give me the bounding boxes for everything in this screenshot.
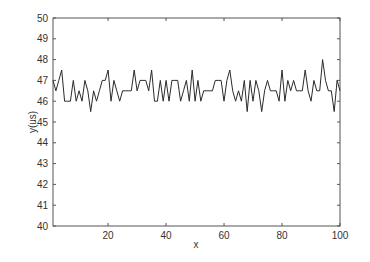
y-tick-label: 45 bbox=[37, 117, 49, 128]
x-tick-label: 100 bbox=[332, 230, 349, 241]
y-tick-label: 50 bbox=[37, 13, 49, 24]
y-axis-label: y(us) bbox=[27, 111, 38, 133]
y-tick-label: 42 bbox=[37, 179, 49, 190]
x-tick-label: 20 bbox=[103, 230, 115, 241]
y-tick-label: 40 bbox=[37, 221, 49, 232]
y-tick-label: 41 bbox=[37, 200, 49, 211]
y-tick-label: 46 bbox=[37, 96, 49, 107]
x-tick-label: 40 bbox=[160, 230, 172, 241]
y-tick-label: 44 bbox=[37, 137, 49, 148]
y-tick-label: 43 bbox=[37, 158, 49, 169]
x-tick-label: 80 bbox=[276, 230, 288, 241]
y-tick-label: 47 bbox=[37, 75, 49, 86]
y-tick-label: 48 bbox=[37, 54, 49, 65]
y-tick-label: 49 bbox=[37, 33, 49, 44]
line-chart: 4041424344454647484950 20406080100 x y(u… bbox=[0, 0, 370, 262]
x-axis-label: x bbox=[194, 239, 199, 250]
x-tick-label: 60 bbox=[218, 230, 230, 241]
